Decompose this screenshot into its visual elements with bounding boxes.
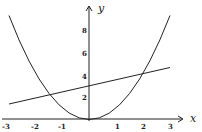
x-tick-label: -3: [2, 122, 10, 131]
y-tick-label: 4: [82, 72, 87, 81]
x-tick-label: 3: [168, 122, 173, 131]
x-axis-label: x: [190, 112, 197, 125]
y-tick-label: 6: [82, 49, 87, 58]
x-tick-label: 1: [115, 122, 120, 131]
x-tick-label: 2: [141, 122, 146, 131]
chart: -3 -2 -1 1 2 3 2 4 6 8 x y: [0, 0, 202, 132]
y-axis-label: y: [97, 2, 105, 15]
x-tick-label: -1: [58, 122, 66, 131]
x-tick-label: -2: [31, 122, 39, 131]
y-tick-label: 8: [82, 26, 87, 35]
y-tick-label: 2: [82, 93, 87, 102]
